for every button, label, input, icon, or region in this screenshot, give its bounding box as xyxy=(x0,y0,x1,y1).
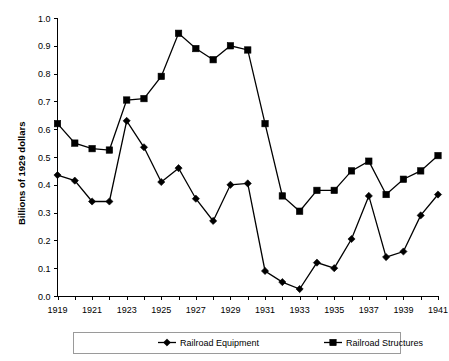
data-point-marker xyxy=(54,120,60,126)
chart-legend: Railroad EquipmentRailroad Structures xyxy=(74,333,424,354)
data-point-marker xyxy=(72,140,78,146)
data-point-marker xyxy=(383,253,390,260)
x-tick-label: 1927 xyxy=(186,305,206,315)
data-point-marker xyxy=(158,73,164,79)
x-tick-label: 1939 xyxy=(393,305,413,315)
data-point-marker xyxy=(296,285,303,292)
data-point-marker xyxy=(365,192,372,199)
x-tick-label: 1925 xyxy=(151,305,171,315)
legend-marker-diamond-icon xyxy=(163,339,170,346)
data-point-marker xyxy=(106,198,113,205)
y-axis: 0.00.10.20.30.40.50.60.70.80.91.0 xyxy=(38,14,58,302)
data-point-marker xyxy=(210,57,216,63)
legend-item-label: Railroad Structures xyxy=(346,338,424,348)
data-point-marker xyxy=(366,158,372,164)
data-point-marker xyxy=(123,117,130,124)
x-tick-label: 1931 xyxy=(255,305,275,315)
data-point-marker xyxy=(140,144,147,151)
y-tick-label: 0.8 xyxy=(38,69,51,79)
y-tick-label: 1.0 xyxy=(38,14,51,24)
series-layer xyxy=(54,30,442,293)
line-chart: Billions of 1929 dollars 0.00.10.20.30.4… xyxy=(0,0,449,361)
y-tick-label: 0.2 xyxy=(38,236,51,246)
x-tick-label: 1933 xyxy=(290,305,310,315)
data-point-marker xyxy=(400,176,406,182)
data-point-marker xyxy=(141,95,147,101)
data-point-marker xyxy=(279,193,285,199)
data-point-marker xyxy=(193,45,199,51)
x-tick-label: 1923 xyxy=(117,305,137,315)
data-point-marker xyxy=(245,47,251,53)
y-tick-label: 0.6 xyxy=(38,125,51,135)
y-tick-label: 0.4 xyxy=(38,180,51,190)
series-line xyxy=(58,121,439,289)
y-axis-title-label: Billions of 1929 dollars xyxy=(16,122,27,225)
y-tick-label: 0.1 xyxy=(38,264,51,274)
data-point-marker xyxy=(279,279,286,286)
data-point-marker xyxy=(244,180,251,187)
data-point-marker xyxy=(54,171,61,178)
y-tick-label: 0.0 xyxy=(38,292,51,302)
y-tick-label: 0.3 xyxy=(38,208,51,218)
data-point-marker xyxy=(348,168,354,174)
data-point-marker xyxy=(262,120,268,126)
x-tick-label: 1921 xyxy=(82,305,102,315)
y-tick-label: 0.9 xyxy=(38,41,51,51)
x-axis: 1919192119231925192719291931193319351937… xyxy=(47,296,448,315)
x-tick-label: 1937 xyxy=(359,305,379,315)
x-tick-label: 1935 xyxy=(324,305,344,315)
data-point-marker xyxy=(331,187,337,193)
x-tick-label: 1929 xyxy=(220,305,240,315)
data-point-marker xyxy=(89,145,95,151)
legend-item-railroad-equipment[interactable]: Railroad Equipment xyxy=(158,338,260,348)
x-tick-label: 1941 xyxy=(428,305,448,315)
x-tick-label: 1919 xyxy=(47,305,67,315)
data-point-marker xyxy=(331,265,338,272)
data-point-marker xyxy=(296,208,302,214)
data-point-marker xyxy=(106,147,112,153)
data-point-marker xyxy=(383,191,389,197)
data-point-marker xyxy=(313,259,320,266)
y-axis-title: Billions of 1929 dollars xyxy=(16,122,27,225)
data-point-marker xyxy=(348,235,355,242)
data-point-marker xyxy=(175,30,181,36)
legend-marker-square-icon xyxy=(330,339,336,345)
data-point-marker xyxy=(227,181,234,188)
data-point-marker xyxy=(227,43,233,49)
data-point-marker xyxy=(123,97,129,103)
data-point-marker xyxy=(261,267,268,274)
legend-item-label: Railroad Equipment xyxy=(180,338,260,348)
legend-item-railroad-structures[interactable]: Railroad Structures xyxy=(324,338,424,348)
data-point-marker xyxy=(400,248,407,255)
data-point-marker xyxy=(314,187,320,193)
y-tick-label: 0.7 xyxy=(38,97,51,107)
y-tick-label: 0.5 xyxy=(38,153,51,163)
data-point-marker xyxy=(435,152,441,158)
chart-container: Billions of 1929 dollars 0.00.10.20.30.4… xyxy=(0,0,449,361)
data-point-marker xyxy=(418,168,424,174)
